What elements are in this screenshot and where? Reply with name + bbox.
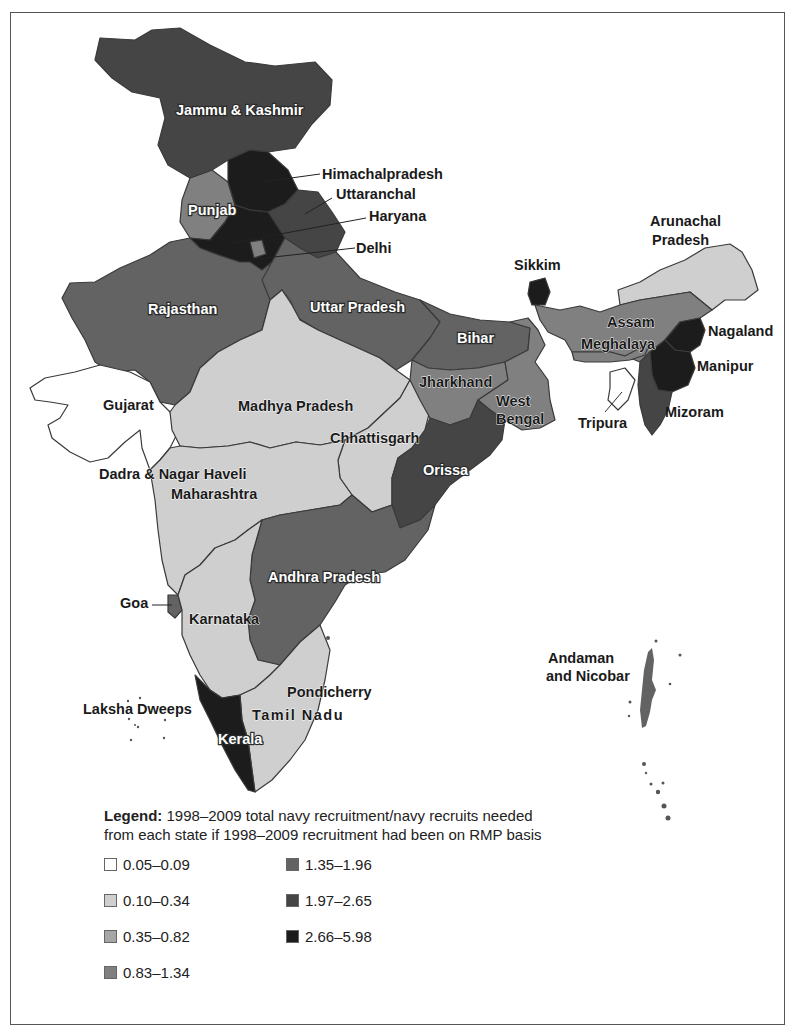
label-bihar: Bihar bbox=[457, 330, 494, 346]
legend-item-7: 2.66–5.98 bbox=[286, 928, 372, 945]
label-kerala: Kerala bbox=[218, 731, 263, 747]
label-madhya-pradesh: Madhya Pradesh bbox=[238, 398, 353, 414]
legend-label-3: 0.35–0.82 bbox=[123, 928, 190, 945]
label-himachalpradesh: Himachalpradesh bbox=[322, 166, 443, 182]
legend-swatch-2 bbox=[104, 894, 117, 907]
label-dadra-nagar-haveli: Dadra & Nagar Haveli bbox=[99, 466, 246, 482]
label-uttaranchal: Uttaranchal bbox=[336, 186, 416, 202]
legend-label-7: 2.66–5.98 bbox=[305, 928, 372, 945]
label-karnataka: Karnataka bbox=[189, 611, 260, 627]
region-sikkim bbox=[528, 278, 550, 305]
legend-swatch-3 bbox=[104, 930, 117, 943]
label-assam: Assam bbox=[607, 314, 655, 330]
region-andaman-nicobar bbox=[640, 648, 656, 728]
label-rajasthan: Rajasthan bbox=[148, 301, 217, 317]
label-andaman-2: and Nicobar bbox=[546, 668, 630, 684]
label-orissa: Orissa bbox=[423, 462, 469, 478]
label-meghalaya: Meghalaya bbox=[581, 336, 656, 352]
legend-label-4: 0.83–1.34 bbox=[123, 964, 190, 981]
label-andhra-pradesh: Andhra Pradesh bbox=[268, 569, 380, 585]
label-delhi: Delhi bbox=[356, 240, 391, 256]
label-goa: Goa bbox=[120, 595, 149, 611]
legend-label-5: 1.35–1.96 bbox=[305, 856, 372, 873]
label-punjab: Punjab bbox=[188, 202, 236, 218]
legend-item-5: 1.35–1.96 bbox=[286, 856, 372, 873]
legend-swatch-1 bbox=[104, 858, 117, 871]
legend-swatch-6 bbox=[286, 894, 299, 907]
legend-item-3: 0.35–0.82 bbox=[104, 928, 190, 945]
legend-item-2: 0.10–0.34 bbox=[104, 892, 190, 909]
label-uttar-pradesh: Uttar Pradesh bbox=[310, 299, 405, 315]
label-andaman-1: Andaman bbox=[548, 650, 614, 666]
legend: Legend: 1998–2009 total navy recruitment… bbox=[104, 806, 704, 1006]
label-laksha-dweeps: Laksha Dweeps bbox=[83, 701, 192, 717]
label-arunachal-2: Pradesh bbox=[652, 232, 709, 248]
legend-label-1: 0.05–0.09 bbox=[123, 856, 190, 873]
legend-title-line1: 1998–2009 total navy recruitment/navy re… bbox=[162, 807, 532, 824]
label-maharashtra: Maharashtra bbox=[171, 486, 258, 502]
label-tripura: Tripura bbox=[578, 415, 628, 431]
legend-title-bold: Legend: bbox=[104, 807, 162, 824]
legend-swatch-4 bbox=[104, 966, 117, 979]
label-manipur: Manipur bbox=[697, 358, 754, 374]
legend-swatch-5 bbox=[286, 858, 299, 871]
legend-title-line2: from each state if 1998–2009 recruitment… bbox=[104, 826, 541, 843]
legend-items: 0.05–0.09 0.10–0.34 0.35–0.82 0.83–1.34 … bbox=[104, 856, 704, 1006]
label-gujarat: Gujarat bbox=[103, 397, 154, 413]
label-tamil-nadu: Tamil Nadu bbox=[252, 707, 344, 723]
label-arunachal-1: Arunachal bbox=[650, 213, 721, 229]
legend-label-6: 1.97–2.65 bbox=[305, 892, 372, 909]
label-sikkim: Sikkim bbox=[514, 257, 561, 273]
label-mizoram: Mizoram bbox=[665, 404, 724, 420]
label-haryana: Haryana bbox=[369, 208, 427, 224]
label-jammu-kashmir: Jammu & Kashmir bbox=[176, 102, 304, 118]
label-west-bengal-1: West bbox=[496, 393, 531, 409]
legend-title: Legend: 1998–2009 total navy recruitment… bbox=[104, 806, 704, 844]
legend-item-1: 0.05–0.09 bbox=[104, 856, 190, 873]
label-west-bengal-2: Bengal bbox=[496, 411, 544, 427]
label-pondicherry: Pondicherry bbox=[287, 684, 372, 700]
legend-label-2: 0.10–0.34 bbox=[123, 892, 190, 909]
legend-item-6: 1.97–2.65 bbox=[286, 892, 372, 909]
label-jharkhand: Jharkhand bbox=[419, 374, 492, 390]
legend-item-4: 0.83–1.34 bbox=[104, 964, 190, 981]
legend-swatch-7 bbox=[286, 930, 299, 943]
label-nagaland: Nagaland bbox=[708, 323, 773, 339]
label-chhattisgarh: Chhattisgarh bbox=[330, 430, 419, 446]
